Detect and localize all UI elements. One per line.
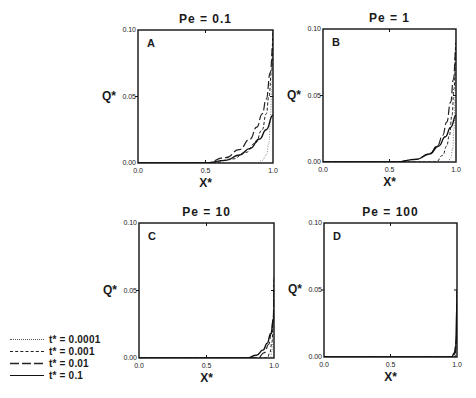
panel-title: Pe = 10 [182,205,231,219]
y-tick-label: 0.00 [122,159,136,166]
legend-label: t* = 0.01 [49,358,89,369]
legend-label: t* = 0.001 [49,346,95,357]
y-tick-label: 0.10 [307,25,321,32]
series-line [324,303,457,357]
series-line [138,30,273,163]
x-axis-label: X* [200,371,213,385]
series-line [324,290,457,357]
x-axis-label: X* [199,176,212,190]
x-tick-label: 1.0 [268,167,278,174]
panel-a: Pe = 0.10.00.51.00.000.050.10X*Q*A [102,12,278,190]
panel-title: Pe = 100 [362,205,418,219]
y-tick-label: 0.05 [308,286,322,293]
y-axis-label: Q* [287,88,301,102]
plot-frame [324,223,457,357]
series-line [138,115,273,163]
y-tick-label: 0.10 [123,219,137,226]
series-line [139,277,274,358]
panel-c: Pe = 100.00.51.00.000.050.10X*Q*C [103,205,279,385]
x-tick-label: 0.0 [134,362,144,369]
panel-letter: C [148,230,156,242]
x-tick-label: 0.0 [133,167,143,174]
y-tick-label: 0.05 [307,92,321,99]
x-tick-label: 0.5 [386,361,396,368]
series-line [324,290,457,357]
plot-frame [323,29,456,162]
long-dash-line-swatch [10,362,44,365]
legend-label: t* = 0.0001 [49,334,100,345]
panel-letter: D [333,230,341,242]
panel-title: Pe = 0.1 [179,12,232,26]
plot-frame [138,30,273,163]
y-tick-label: 0.10 [122,26,136,33]
dashed-line-swatch [10,351,44,352]
series-line [139,277,274,358]
panel-title: Pe = 1 [369,11,410,25]
solid-line-swatch [10,375,44,376]
panel-letter: B [332,36,340,48]
series-line [323,49,456,162]
y-tick-label: 0.05 [123,287,137,294]
panel-d: Pe = 1000.00.51.00.000.050.10X*Q*D [288,205,462,384]
x-tick-label: 1.0 [451,166,461,173]
series-line [138,30,273,163]
x-tick-label: 1.0 [452,361,462,368]
plot-frame [139,223,274,358]
legend-item-t-0.01: t* = 0.01 [10,357,120,369]
series-line [323,42,456,162]
legend-label: t* = 0.1 [49,370,83,381]
panel-b: Pe = 10.00.51.00.000.050.10X*Q*B [287,11,461,189]
y-tick-label: 0.00 [308,353,322,360]
x-tick-label: 0.0 [318,166,328,173]
x-axis-label: X* [384,370,397,384]
x-tick-label: 0.5 [202,362,212,369]
series-line [323,115,456,162]
y-axis-label: Q* [288,282,302,296]
x-tick-label: 0.5 [201,167,211,174]
legend-item-t-0.0001: t* = 0.0001 [10,333,120,345]
y-tick-label: 0.00 [307,158,321,165]
y-tick-label: 0.00 [123,354,137,361]
y-axis-label: Q* [103,283,117,297]
panel-letter: A [147,37,155,49]
x-axis-label: X* [383,175,396,189]
legend: t* = 0.0001 t* = 0.001 t* = 0.01 t* = 0.… [10,333,120,381]
series-line [139,318,274,359]
y-tick-label: 0.10 [308,219,322,226]
legend-item-t-0.1: t* = 0.1 [10,369,120,381]
series-line [139,291,274,359]
x-tick-label: 1.0 [269,362,279,369]
y-tick-label: 0.05 [122,93,136,100]
x-tick-label: 0.5 [385,166,395,173]
series-line [324,290,457,357]
legend-item-t-0.001: t* = 0.001 [10,345,120,357]
figure: Pe = 0.10.00.51.00.000.050.10X*Q*APe = 1… [0,0,476,398]
series-line [323,29,456,162]
y-axis-label: Q* [102,89,116,103]
dotted-line-swatch [10,339,44,340]
x-tick-label: 0.0 [319,361,329,368]
